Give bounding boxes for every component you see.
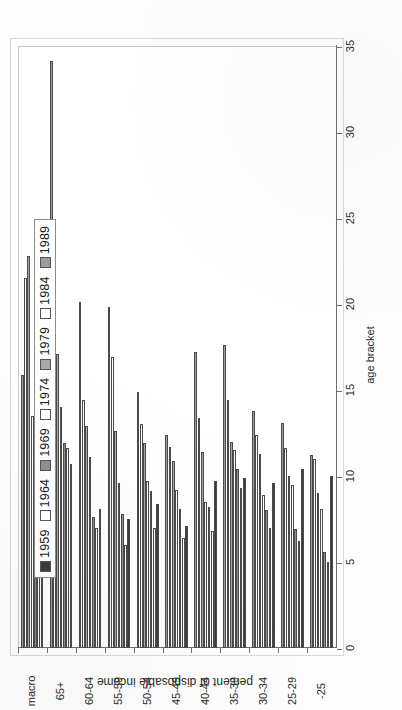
bar-1984--25[interactable]	[313, 459, 316, 648]
bar-1964-40-44[interactable]	[211, 531, 214, 648]
bar-1964-55-59[interactable]	[124, 545, 127, 648]
bar-1979-macro[interactable]	[27, 256, 30, 648]
bar-1984-30-34[interactable]	[255, 435, 258, 648]
legend-item-1964[interactable]: 1964	[38, 479, 52, 522]
bar-1989-25-29[interactable]	[281, 423, 284, 648]
bar-1959-55-59[interactable]	[127, 519, 130, 648]
legend-swatch-icon	[40, 561, 51, 572]
bar-1959-35-39[interactable]	[243, 478, 246, 648]
bar-1989-50-54[interactable]	[137, 392, 140, 648]
bar-1979--25[interactable]	[317, 493, 320, 648]
bar-1959-60-64[interactable]	[99, 509, 102, 648]
bar-1969-50-54[interactable]	[150, 491, 153, 648]
bar-1969-65+[interactable]	[63, 443, 66, 648]
bar-1964-50-54[interactable]	[153, 528, 156, 648]
category-axis-tick	[307, 648, 308, 653]
bar-1964-25-29[interactable]	[298, 541, 301, 648]
bar-1959-25-29[interactable]	[301, 469, 304, 648]
value-axis-tick	[337, 391, 342, 392]
legend-item-1984[interactable]: 1984	[38, 276, 52, 319]
bar-1979-35-39[interactable]	[230, 442, 233, 648]
bar-1974-60-64[interactable]	[89, 457, 92, 648]
bar-1974-25-29[interactable]	[291, 485, 294, 648]
bar-1969-40-44[interactable]	[208, 507, 211, 648]
bar-1959-45-49[interactable]	[185, 526, 188, 648]
bar-1984-50-54[interactable]	[140, 424, 143, 648]
bar-1969-30-34[interactable]	[265, 510, 268, 648]
legend-item-1989[interactable]: 1989	[38, 226, 52, 269]
legend-swatch-icon	[40, 460, 51, 471]
legend-swatch-icon	[40, 308, 51, 319]
bar-1969-35-39[interactable]	[236, 469, 239, 648]
bar-1964-35-39[interactable]	[240, 488, 243, 648]
bar-1989-30-34[interactable]	[252, 411, 255, 648]
bar-1984-40-44[interactable]	[198, 418, 201, 648]
bar-1959-30-34[interactable]	[272, 483, 275, 648]
bar-1979-45-49[interactable]	[172, 461, 175, 648]
bar-1989-60-64[interactable]	[79, 302, 82, 648]
bar-1979-65+[interactable]	[56, 354, 59, 648]
bar-1979-40-44[interactable]	[201, 452, 204, 648]
chart-legend[interactable]: 1959196419691974197919841989	[34, 219, 56, 578]
bar-1969-45-49[interactable]	[179, 509, 182, 648]
grouped-bar-chart: 05101520253035 -2525-2930-3435-3940-4445…	[0, 0, 402, 710]
bar-1959-50-54[interactable]	[156, 504, 159, 648]
value-axis-tick-label: 20	[345, 282, 356, 326]
bar-1989-35-39[interactable]	[223, 345, 226, 648]
bar-1989--25[interactable]	[310, 455, 313, 648]
bar-1974-50-54[interactable]	[146, 481, 149, 648]
legend-item-1959[interactable]: 1959	[38, 529, 52, 572]
legend-item-1974[interactable]: 1974	[38, 378, 52, 421]
bar-1974-30-34[interactable]	[262, 495, 265, 648]
bar-1969-55-59[interactable]	[121, 514, 124, 648]
bar-1959-40-44[interactable]	[214, 481, 217, 648]
bar-1969--25[interactable]	[323, 552, 326, 648]
bar-1959--25[interactable]	[330, 476, 333, 648]
bar-1974-35-39[interactable]	[233, 450, 236, 648]
bar-1964-60-64[interactable]	[95, 528, 98, 648]
bar-1964--25[interactable]	[327, 562, 330, 648]
bar-1984-35-39[interactable]	[227, 400, 230, 648]
bar-1979-30-34[interactable]	[259, 454, 262, 648]
bar-1969-60-64[interactable]	[92, 517, 95, 648]
category-axis-tick	[249, 648, 250, 653]
legend-swatch-icon	[40, 409, 51, 420]
bar-1979-50-54[interactable]	[143, 443, 146, 648]
bar-1989-55-59[interactable]	[108, 307, 111, 648]
y-axis-title: percent of disposable income	[55, 675, 295, 689]
bar-1984-55-59[interactable]	[111, 357, 114, 648]
category-axis-tick	[105, 648, 106, 653]
bar-1984-60-64[interactable]	[82, 400, 85, 648]
bar-1974-45-49[interactable]	[175, 490, 178, 648]
bar-1964-45-49[interactable]	[182, 538, 185, 648]
bar-1974--25[interactable]	[320, 509, 323, 648]
value-axis-tick-label: 15	[345, 368, 356, 412]
bar-1964-65+[interactable]	[66, 448, 69, 648]
bar-1969-25-29[interactable]	[294, 529, 297, 648]
bar-1989-40-44[interactable]	[194, 352, 197, 648]
bar-1979-60-64[interactable]	[85, 426, 88, 648]
x-axis-title: age bracket	[364, 0, 376, 710]
value-axis-tick-label: 10	[345, 454, 356, 498]
legend-item-1979[interactable]: 1979	[38, 327, 52, 370]
bar-1989-45-49[interactable]	[165, 435, 168, 648]
bar-1984-25-29[interactable]	[284, 448, 287, 648]
bar-1959-65+[interactable]	[70, 464, 73, 648]
bar-1979-55-59[interactable]	[114, 431, 117, 648]
legend-swatch-icon	[40, 359, 51, 370]
legend-label: 1964	[38, 479, 52, 508]
bar-1979-25-29[interactable]	[288, 476, 291, 648]
bar-1974-55-59[interactable]	[118, 483, 121, 648]
bar-1964-30-34[interactable]	[269, 528, 272, 648]
category-axis-tick	[163, 648, 164, 653]
category-axis-tick	[134, 648, 135, 653]
legend-item-1969[interactable]: 1969	[38, 428, 52, 471]
bar-1984-45-49[interactable]	[169, 447, 172, 648]
value-axis-tick-label: 35	[345, 24, 356, 68]
bar-1974-40-44[interactable]	[204, 502, 207, 648]
legend-label: 1984	[38, 276, 52, 305]
category-axis-tick	[76, 648, 77, 653]
bar-1989-macro[interactable]	[21, 375, 24, 648]
bar-1984-macro[interactable]	[24, 278, 27, 648]
bar-1974-65+[interactable]	[60, 407, 63, 648]
